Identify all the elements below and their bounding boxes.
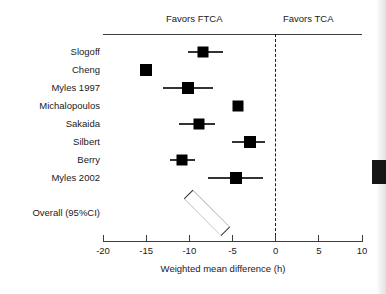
effect-marker-slogoff	[198, 47, 209, 58]
study-label-sakaida: Sakaida	[66, 118, 100, 129]
effect-marker-berry	[177, 155, 188, 166]
x-tick-label--10: -10	[182, 245, 196, 256]
x-tick--20	[103, 235, 104, 242]
x-tick-label-10: 10	[357, 245, 368, 256]
x-tick--10	[189, 235, 190, 242]
study-label-slogoff: Slogoff	[71, 46, 100, 57]
effect-marker-sakaida	[193, 119, 204, 130]
effect-marker-michalopoulos	[232, 101, 243, 112]
effect-marker-myles-2002	[230, 172, 242, 184]
effect-marker-myles-1997	[182, 82, 194, 94]
x-tick-0	[275, 235, 276, 242]
x-tick-label--15: -15	[139, 245, 153, 256]
study-label-michalopoulos: Michalopoulos	[39, 100, 100, 111]
page-edge-artifact	[376, 0, 386, 294]
x-tick-5	[318, 235, 319, 242]
effect-marker-silbert	[244, 136, 256, 148]
x-tick-label--5: -5	[228, 245, 236, 256]
x-tick-label-5: 5	[316, 245, 321, 256]
x-tick-label--20: -20	[96, 245, 110, 256]
x-axis-title-text: Weighted mean difference (h)	[161, 263, 286, 274]
overall-diamond	[184, 190, 230, 236]
x-tick--15	[146, 235, 147, 242]
x-tick--5	[232, 235, 233, 242]
overall-label: Overall (95%CI)	[32, 207, 100, 218]
study-label-cheng: Cheng	[72, 64, 100, 75]
favors-left-label: Favors FTCA	[166, 13, 222, 24]
study-label-silbert: Silbert	[73, 136, 100, 147]
effect-marker-cheng	[140, 64, 152, 76]
forest-plot-figure: Favors FTCA Favors TCA SlogoffChengMyles…	[0, 0, 386, 294]
page-edge-mark	[372, 160, 386, 184]
study-label-myles-1997: Myles 1997	[51, 82, 100, 93]
study-label-myles-2002: Myles 2002	[51, 172, 100, 183]
plot-top-rule	[103, 34, 362, 35]
favors-right-label: Favors TCA	[283, 13, 334, 24]
null-effect-line	[275, 34, 276, 241]
study-label-berry: Berry	[77, 154, 100, 165]
x-tick-label-0: 0	[273, 245, 278, 256]
x-axis-title: Weighted mean difference (h)	[0, 263, 386, 274]
x-tick-10	[362, 235, 363, 242]
